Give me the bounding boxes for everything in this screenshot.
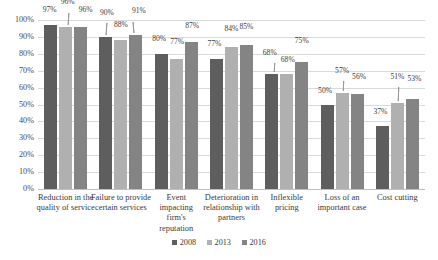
bar-group-bars: 80%77%87%: [149, 20, 204, 189]
legend-label: 2013: [215, 238, 231, 247]
bar-group-bars: 50%57%56%: [314, 20, 369, 189]
bar-2008-2: 90%: [99, 37, 112, 189]
x-axis-label-3: Event impacting firm's reputation: [153, 193, 199, 234]
axis-baseline: [38, 189, 425, 190]
data-label: 77%: [201, 40, 227, 48]
bar-2013-6: 57%: [336, 93, 349, 189]
bar-2008-1: 97%: [44, 25, 57, 189]
bar-group-bars: 97%96%96%: [38, 20, 93, 189]
bar-2013-5: 68%: [280, 74, 293, 189]
bar-2013-2: 88%: [114, 40, 127, 189]
bar-2008-7: 37%: [376, 126, 389, 189]
y-axis-tick-label: 40%: [0, 117, 34, 125]
y-axis-tick-label: 70%: [0, 67, 34, 75]
bar-group-bars: 37%51%53%: [370, 20, 425, 189]
legend-swatch-icon: [242, 240, 247, 245]
bar-group: 77%84%85%: [204, 20, 259, 189]
bar-group-bars: 90%88%91%: [93, 20, 148, 189]
data-label: 97%: [37, 6, 63, 14]
bar-2016-1: 96%: [74, 27, 87, 189]
data-label: 91%: [126, 7, 152, 15]
x-axis-label-6: Loss of an important case: [314, 193, 370, 213]
x-axis-category-labels: Reduction in the quality of serviceFailu…: [38, 193, 425, 241]
x-axis-label-4: Deterioration in relationship with partn…: [201, 193, 263, 224]
legend-item-2016[interactable]: 2016: [242, 238, 266, 247]
bar-2016-2: 91%: [129, 35, 142, 189]
bar-2013-1: 96%: [59, 27, 72, 189]
bar-2016-6: 56%: [351, 94, 364, 189]
y-axis-tick-label: 30%: [0, 134, 34, 142]
bar-group: 80%77%87%: [149, 20, 204, 189]
plot-area: 97%96%96%90%88%91%80%77%87%77%84%85%68%6…: [38, 20, 425, 189]
bar-2013-4: 84%: [225, 47, 238, 189]
data-label: 50%: [312, 87, 338, 95]
data-label: 75%: [289, 37, 315, 45]
bar-2016-3: 87%: [185, 42, 198, 189]
y-axis: 100%90%80%70%60%50%40%30%20%10%0%: [0, 20, 34, 189]
bar-2016-5: 75%: [295, 62, 308, 189]
bar-group: 50%57%56%: [314, 20, 369, 189]
data-label-leader-line: [68, 13, 70, 25]
legend-label: 2016: [249, 238, 265, 247]
grouped-bar-chart: 100%90%80%70%60%50%40%30%20%10%0% 97%96%…: [0, 0, 438, 260]
y-axis-tick-label: 90%: [0, 33, 34, 41]
data-label: 53%: [401, 75, 427, 83]
y-axis-tick-label: 50%: [0, 101, 34, 109]
bar-2016-4: 85%: [240, 45, 253, 189]
bar-group: 37%51%53%: [370, 20, 425, 189]
data-label: 85%: [233, 23, 259, 31]
bar-group-bars: 77%84%85%: [204, 20, 259, 189]
data-label: 88%: [108, 21, 134, 29]
legend-swatch-icon: [172, 240, 177, 245]
bar-group: 97%96%96%: [38, 20, 93, 189]
bar-2008-6: 50%: [321, 105, 334, 190]
bar-group: 68%68%75%: [259, 20, 314, 189]
data-label: 90%: [94, 9, 120, 17]
y-axis-tick-label: 0%: [0, 185, 34, 193]
y-axis-tick-label: 60%: [0, 84, 34, 92]
bar-2013-3: 77%: [170, 59, 183, 189]
bar-2008-4: 77%: [210, 59, 223, 189]
data-label-leader-line: [133, 22, 135, 33]
data-label: 56%: [346, 73, 372, 81]
data-label-leader-line: [342, 81, 343, 91]
y-axis-tick-label: 100%: [0, 16, 34, 24]
bar-2013-7: 51%: [391, 103, 404, 189]
bar-2016-7: 53%: [406, 99, 419, 189]
data-label-leader-line: [274, 63, 275, 72]
data-label: 87%: [179, 22, 205, 30]
bar-2008-3: 80%: [155, 54, 168, 189]
bar-2008-5: 68%: [265, 74, 278, 189]
legend-label: 2008: [180, 238, 196, 247]
y-axis-tick-label: 10%: [0, 168, 34, 176]
data-label: 37%: [367, 108, 393, 116]
y-axis-tick-label: 80%: [0, 50, 34, 58]
bar-group: 90%88%91%: [93, 20, 148, 189]
x-axis-label-1: Reduction in the quality of service: [36, 193, 96, 213]
legend-item-2013[interactable]: 2013: [207, 238, 231, 247]
y-axis-tick-label: 20%: [0, 151, 34, 159]
x-axis-label-2: Failure to provide certain services: [90, 193, 152, 213]
x-axis-label-7: Cost cutting: [373, 193, 421, 203]
chart-legend: 200820132016: [0, 238, 438, 247]
bar-group-bars: 68%68%75%: [259, 20, 314, 189]
legend-swatch-icon: [207, 240, 212, 245]
legend-item-2008[interactable]: 2008: [172, 238, 196, 247]
data-label-leader-line: [398, 87, 399, 101]
x-axis-label-5: Inflexible pricing: [267, 193, 307, 213]
